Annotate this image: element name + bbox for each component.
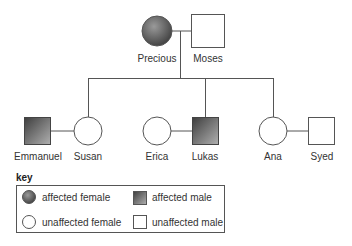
symbol-syed [309, 118, 335, 145]
label-precious: Precious [138, 53, 177, 64]
key-unaffected-female-label: unaffected female [42, 217, 122, 228]
connector-lines [51, 31, 308, 131]
key-affected-female-icon [23, 191, 36, 204]
symbol-erica [143, 117, 171, 145]
key-affected-female-label: affected female [42, 192, 111, 203]
label-ana: Ana [264, 151, 282, 162]
key-affected-male-label: affected male [152, 192, 212, 203]
key-unaffected-female-icon [23, 216, 36, 229]
label-erica: Erica [146, 151, 169, 162]
key-unaffected-male-label: unaffected male [152, 217, 223, 228]
label-susan: Susan [74, 151, 102, 162]
key-affected-male-icon [134, 192, 147, 205]
pedigree-diagram: Precious Moses Emmanuel Susan Erica Luka… [0, 0, 352, 246]
label-syed: Syed [311, 151, 334, 162]
symbol-susan [74, 117, 102, 145]
key-unaffected-male-icon [134, 216, 147, 229]
symbol-ana [259, 117, 287, 145]
label-emmanuel: Emmanuel [14, 151, 62, 162]
symbol-lukas [193, 118, 219, 145]
symbol-precious [142, 16, 172, 46]
symbol-emmanuel [25, 118, 51, 145]
label-lukas: Lukas [192, 151, 219, 162]
label-moses: Moses [193, 53, 222, 64]
key-title: key [16, 172, 33, 183]
symbol-moses [192, 15, 225, 48]
